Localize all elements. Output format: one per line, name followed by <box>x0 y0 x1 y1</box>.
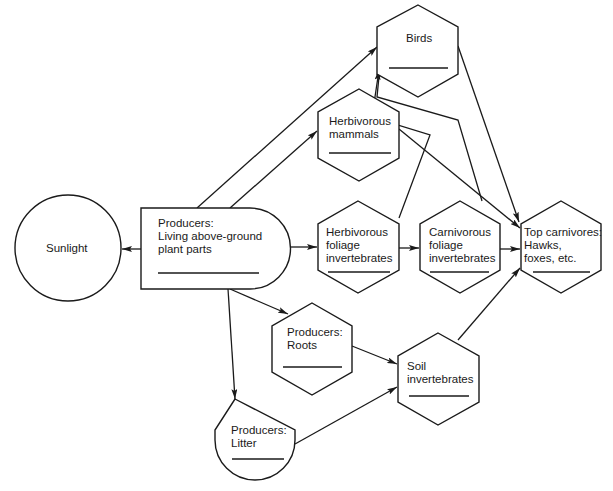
edge-producers-herb-mammals <box>230 131 317 208</box>
label-top-carnivores: Top carnivores: Hawks, foxes, etc. <box>524 226 602 265</box>
food-web-diagram <box>0 0 613 491</box>
label-producers-roots: Producers: Roots <box>287 326 343 352</box>
nodes <box>15 5 601 480</box>
label-birds: Birds <box>406 32 432 45</box>
label-producers-litter: Producers: Litter <box>231 424 287 450</box>
edge-litter-soil <box>295 387 397 444</box>
label-producers-above: Producers: Living above-ground plant par… <box>158 217 262 256</box>
label-herb-mammals: Herbivorous mammals <box>329 115 391 141</box>
node-birds <box>377 5 458 97</box>
edge-roots-soil <box>352 346 397 364</box>
label-herb-foliage-inv: Herbivorous foliage invertebrates <box>326 226 392 265</box>
edge-birds-top <box>458 46 519 222</box>
edge-producers-litter <box>228 289 235 399</box>
label-carn-foliage-inv: Carnivorous foliage invertebrates <box>429 226 495 265</box>
edge-producers-roots <box>230 289 288 314</box>
label-soil-inv: Soil invertebrates <box>407 360 473 386</box>
label-sunlight: Sunlight <box>46 242 88 255</box>
